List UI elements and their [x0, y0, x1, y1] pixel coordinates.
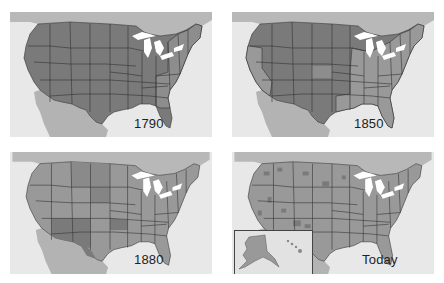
us-map-1850: [232, 12, 434, 137]
map-panel-today: Today: [232, 152, 434, 274]
year-label: 1850: [354, 116, 384, 131]
us-map-1880: [10, 152, 212, 274]
hawaii-inset: [282, 230, 313, 274]
alaska-inset: [234, 230, 284, 274]
year-label: Today: [362, 252, 398, 267]
alaska-map: [235, 231, 283, 274]
year-label: 1790: [134, 116, 164, 131]
map-panel-1850: 1850: [232, 12, 434, 137]
map-panel-1880: 1880: [10, 152, 212, 274]
map-panel-1790: 1790: [10, 12, 212, 137]
us-map-1790: [10, 12, 212, 137]
hawaii-map: [282, 231, 312, 274]
year-label: 1880: [134, 252, 164, 267]
